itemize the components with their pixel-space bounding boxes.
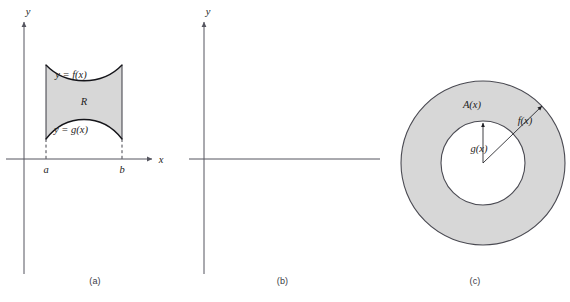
- y-axis-label: y: [25, 6, 31, 17]
- panel-a-region: y = f(x) R y = g(x) a b x y (a): [0, 0, 190, 302]
- x-axis-label: x: [158, 154, 164, 165]
- panel-a-svg: y = f(x) R y = g(x) a b x y: [0, 0, 190, 302]
- panel-b-caption: (b): [185, 276, 380, 286]
- panel-c-washer: A(x) f(x) g(x) (c): [380, 0, 570, 302]
- panel-a-caption: (a): [0, 276, 190, 286]
- label-annulus-area: A(x): [462, 99, 482, 111]
- panel-b-solid: A(x) S a x b x y (b): [185, 0, 380, 302]
- figure-solid-of-revolution: y = f(x) R y = g(x) a b x y (a): [0, 0, 570, 302]
- panel-c-svg: A(x) f(x) g(x): [380, 0, 570, 302]
- label-curve-f: y = f(x): [54, 69, 87, 81]
- label-inner-radius-g: g(x): [471, 143, 488, 155]
- y-axis-label: y: [205, 6, 211, 17]
- tick-label-a: a: [43, 164, 48, 175]
- label-outer-radius-f: f(x): [518, 115, 533, 127]
- panel-c-caption: (c): [380, 276, 570, 286]
- tick-label-b: b: [119, 164, 124, 175]
- panel-b-svg: A(x) S a x b x y: [185, 0, 380, 302]
- label-curve-g: y = g(x): [53, 124, 88, 136]
- label-region-r: R: [80, 96, 88, 107]
